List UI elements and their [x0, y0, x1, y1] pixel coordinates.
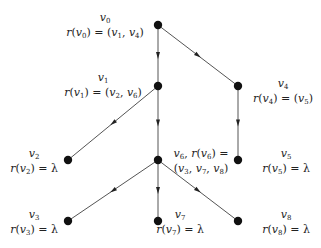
label-v5: v5r(v5) = λ	[254, 148, 318, 178]
arrowhead-icon	[236, 120, 240, 127]
node-v0	[154, 21, 162, 29]
node-v6	[154, 156, 162, 164]
node-v5	[234, 156, 242, 164]
edges	[68, 25, 240, 221]
arrowhead-icon	[156, 187, 160, 194]
arrowhead-icon	[110, 187, 117, 193]
node-v2	[64, 156, 72, 164]
label-v7: v7r(v7) = λ	[150, 209, 210, 239]
label-v0: v0r(v0) = (v1, v4)	[60, 12, 150, 42]
label-v8: v8r(v8) = λ	[254, 209, 318, 239]
arrowhead-icon	[156, 120, 160, 127]
arrowhead-icon	[156, 52, 160, 59]
label-v4: v4r(v4) = (v5)	[248, 78, 318, 108]
label-v6: v6, r(v6) =(v3, v7, v8)	[168, 148, 234, 178]
node-v1	[154, 82, 162, 90]
node-v8	[234, 217, 242, 225]
node-v3	[64, 217, 72, 225]
label-v1: v1r(v1) = (v2, v6)	[58, 72, 148, 102]
label-v2: v2r(v2) = λ	[4, 148, 64, 178]
nodes	[64, 21, 242, 225]
node-v4	[234, 82, 242, 90]
label-v3: v3r(v3) = λ	[4, 209, 64, 239]
